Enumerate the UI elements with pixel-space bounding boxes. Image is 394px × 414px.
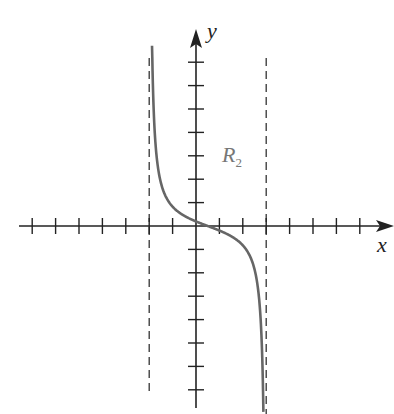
region-label: R2 [222,142,242,171]
plot-svg [0,0,394,414]
region-label-sub: 2 [235,155,242,170]
x-axis-label: x [377,232,387,258]
y-axis-label: y [207,18,217,44]
region-label-main: R [222,142,235,167]
chart-area: y x R2 [0,0,394,414]
function-curve [152,46,263,412]
